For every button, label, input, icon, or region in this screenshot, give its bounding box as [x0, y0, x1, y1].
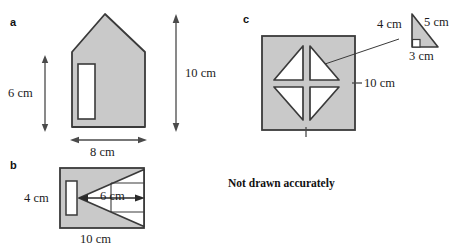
dimension-label-b-4cm: 4 cm	[24, 192, 49, 205]
dimension-label-a-6cm: 6 cm	[8, 87, 33, 100]
figure-c-group	[262, 14, 438, 137]
not-drawn-accurately-note: Not drawn accurately	[228, 178, 335, 190]
square-c-shape	[262, 36, 355, 130]
dimension-arrow-a-6cm	[42, 55, 48, 132]
dimension-arrow-a-10cm	[173, 14, 180, 132]
figures-canvas	[0, 0, 457, 249]
rect-b-small-cutout	[66, 181, 77, 215]
part-label-b: b	[10, 160, 17, 171]
dimension-label-a-10cm: 10 cm	[185, 67, 216, 80]
house-door-cutout	[78, 64, 95, 119]
part-label-a: a	[10, 17, 16, 28]
dimension-label-c-tri-5cm: 5 cm	[424, 16, 449, 29]
dimension-label-a-8cm: 8 cm	[90, 146, 115, 159]
dimension-label-c-10cm: 10 cm	[364, 77, 395, 90]
dimension-label-c-tri-3cm: 3 cm	[409, 50, 434, 63]
part-label-c: c	[243, 14, 249, 25]
figure-page: exercise continued	[0, 0, 457, 249]
dimension-arrow-a-8cm	[70, 137, 147, 143]
dimension-label-b-6cm: 6 cm	[100, 190, 125, 203]
figure-a-group	[42, 14, 180, 143]
dimension-label-c-tri-4cm: 4 cm	[377, 18, 402, 31]
dimension-label-b-10cm: 10 cm	[80, 233, 111, 246]
right-angle-marker	[413, 40, 421, 48]
